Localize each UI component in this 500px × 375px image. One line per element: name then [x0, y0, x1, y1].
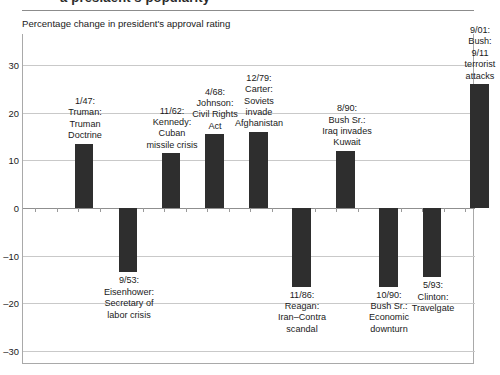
x-axis-tick: [100, 208, 101, 212]
bar-label-line: Carter:: [215, 84, 303, 95]
bar-label-line: 5/93:: [394, 280, 472, 291]
page-bleed-strip: a presiaent's popularity: [0, 0, 494, 9]
bar-annotation: 5/93:Clinton:Travelgate: [394, 280, 472, 314]
bar-label-line: Kuwait: [307, 137, 387, 148]
bar-label-line: Clinton:: [394, 292, 472, 303]
bar-label-line: Eisenhower:: [83, 287, 175, 298]
x-axis-tick: [250, 208, 251, 212]
bar-label-line: scandal: [259, 324, 345, 335]
bar-label-line: Reagan:: [259, 301, 345, 312]
bar-annotation: 1/47:Truman:TrumanDoctrine: [43, 96, 127, 142]
bar: [292, 208, 311, 287]
y-axis-tick-label: 30: [0, 60, 19, 71]
bar-label-line: Travelgate: [394, 303, 472, 314]
bar-label-line: Iraq invades: [307, 126, 387, 137]
x-axis-tick: [57, 208, 58, 212]
y-axis-tick-label: 20: [0, 107, 19, 118]
bar: [75, 144, 93, 208]
bar-label-line: Truman: [43, 119, 127, 130]
bar-annotation: 9/01:Bush:9/11terroristattacks: [443, 25, 500, 82]
bar: [379, 208, 398, 287]
y-axis-tick-label: –20: [0, 298, 19, 309]
x-axis-tick: [465, 208, 466, 212]
y-axis-tick-label: 0: [0, 203, 19, 214]
bar-annotation: 8/90:Bush Sr.:Iraq invadesKuwait: [307, 103, 387, 149]
top-rule-divider: [22, 10, 474, 11]
bar-label-line: Soviets: [215, 96, 303, 107]
y-axis-tick-label: 10: [0, 155, 19, 166]
bar-label-line: Truman:: [43, 107, 127, 118]
bar-label-line: Bush:: [443, 36, 500, 47]
bar-label-line: 9/53:: [83, 275, 175, 286]
bar-label-line: attacks: [443, 71, 500, 82]
bar-label-line: labor crisis: [83, 310, 175, 321]
x-axis-tick: [78, 208, 79, 212]
bar-label-line: 1/47:: [43, 96, 127, 107]
x-axis-tick: [401, 208, 402, 212]
bleed-heading-text: a presiaent's popularity: [60, 0, 210, 5]
bar-label-line: Secretary of: [83, 298, 175, 309]
bar-label-line: Iran–Contra: [259, 312, 345, 323]
bar: [423, 208, 441, 277]
bar-label-line: Afghanistan: [215, 118, 303, 129]
bar-label-line: 9/01:: [443, 25, 500, 36]
x-axis-tick: [358, 208, 359, 212]
x-axis-tick: [444, 208, 445, 212]
y-axis-tick-label: –10: [0, 250, 19, 261]
bar-label-line: downturn: [349, 324, 429, 335]
gridline-neg10: [23, 256, 475, 257]
x-axis-tick: [315, 208, 316, 212]
x-axis-tick: [229, 208, 230, 212]
gridline-0: [23, 208, 475, 209]
bar: [205, 134, 224, 208]
bar-label-line: Bush Sr.:: [307, 115, 387, 126]
bar: [119, 208, 137, 272]
x-axis-tick: [186, 208, 187, 212]
bar: [162, 153, 180, 208]
chart-caption: Percentage change in president's approva…: [22, 18, 230, 29]
gridline-neg30: [23, 351, 475, 352]
gridline-30: [23, 65, 475, 66]
y-axis-tick-label: –30: [0, 346, 19, 357]
bar-label-line: 9/11: [443, 48, 500, 59]
bar-label-line: missile crisis: [127, 140, 217, 151]
bar-label-line: 8/90:: [307, 103, 387, 114]
plot-area: 3020100–10–20–301/47:Truman:TrumanDoctri…: [22, 34, 474, 364]
bar-label-line: 11/86:: [259, 290, 345, 301]
x-axis-tick: [164, 208, 165, 212]
bar-annotation: 11/86:Reagan:Iran–Contrascandal: [259, 290, 345, 336]
bar-annotation: 9/53:Eisenhower:Secretary oflabor crisis: [83, 275, 175, 321]
x-axis-tick: [143, 208, 144, 212]
x-axis-tick: [35, 208, 36, 212]
bar-label-line: invade: [215, 107, 303, 118]
x-axis-tick: [272, 208, 273, 212]
bar-label-line: 12/79:: [215, 73, 303, 84]
bar: [470, 84, 489, 208]
bar-label-line: terrorist: [443, 59, 500, 70]
bar-label-line: Doctrine: [43, 130, 127, 141]
x-axis-tick: [207, 208, 208, 212]
bar: [249, 132, 268, 208]
bar: [336, 151, 355, 208]
x-axis-tick: [336, 208, 337, 212]
bar-annotation: 12/79:Carter:SovietsinvadeAfghanistan: [215, 73, 303, 130]
